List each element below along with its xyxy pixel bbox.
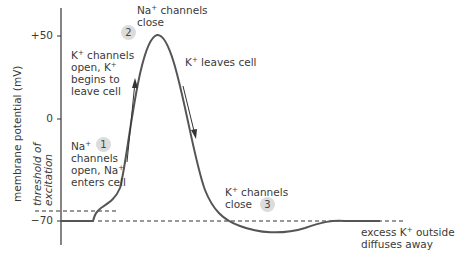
step-3-label: K+ channelsclose	[225, 186, 288, 210]
threshold-label: threshold of excitation	[32, 143, 54, 206]
step-2-label: Na+ channelsclose	[137, 4, 208, 28]
k-leaves-cell-label: K+ leaves cell	[185, 56, 256, 68]
tick-label-minus70: −70	[19, 214, 53, 226]
step-2-badge: 2	[121, 25, 136, 40]
excess-k-label: excess K+ outsidediffuses away	[361, 226, 455, 250]
threshold-label-line2: excitation	[42, 154, 54, 206]
k-channels-open-label: K+ channelsopen, K+begins toleave cell	[71, 49, 134, 97]
tick-label-plus50: +50	[19, 29, 53, 41]
y-axis-label: membrane potential (mV)	[11, 66, 23, 202]
step-1-label: Na+channelsopen, Na+enters cell	[71, 140, 126, 188]
tick-label-0: 0	[19, 112, 53, 124]
